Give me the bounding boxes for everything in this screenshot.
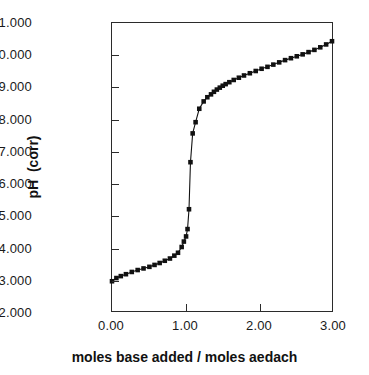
x-axis-tick-label: 0.00	[98, 318, 124, 333]
data-point-marker	[306, 50, 311, 55]
plot-area	[111, 22, 333, 312]
x-axis-tick-label: 3.00	[320, 318, 346, 333]
data-point-marker	[152, 263, 157, 268]
data-point-marker	[318, 45, 323, 50]
chart-figure: pH (corr) 2.0003.0004.0005.0006.0007.000…	[0, 0, 369, 375]
y-axis-tick-label: 9.000	[0, 79, 32, 94]
data-point-marker	[242, 73, 247, 78]
data-point-marker	[197, 106, 202, 111]
data-point-marker	[259, 66, 264, 71]
data-point-marker	[227, 80, 232, 85]
y-axis-tick-label: 10.000	[0, 47, 32, 62]
y-axis-tick-label: 7.000	[0, 143, 32, 158]
data-point-marker	[324, 42, 329, 47]
data-point-marker	[188, 160, 193, 165]
y-axis-tick	[112, 87, 119, 88]
data-point-marker	[265, 65, 270, 70]
x-axis-title: moles base added / moles aedach	[0, 349, 369, 365]
data-point-marker	[283, 58, 288, 63]
data-series-layer	[112, 23, 332, 311]
data-point-marker	[168, 256, 173, 261]
y-axis-tick	[112, 120, 119, 121]
data-point-marker	[295, 54, 300, 59]
x-axis-tick	[186, 304, 187, 311]
y-axis-tick	[112, 55, 119, 56]
data-point-marker	[187, 207, 192, 212]
y-axis-tick	[112, 249, 119, 250]
data-point-marker	[114, 276, 119, 281]
data-point-marker	[330, 39, 335, 44]
data-point-marker	[124, 272, 129, 277]
data-point-marker	[193, 120, 198, 125]
data-point-marker	[231, 78, 236, 83]
y-axis-tick	[112, 184, 119, 185]
data-point-marker	[300, 52, 305, 57]
data-point-marker	[237, 75, 242, 80]
y-axis-tick-label: 2.000	[0, 305, 32, 320]
data-point-marker	[277, 60, 282, 65]
data-point-marker	[312, 48, 317, 53]
data-point-marker	[141, 266, 146, 271]
data-point-marker	[147, 265, 152, 270]
data-point-marker	[248, 71, 253, 76]
x-axis-tick	[260, 304, 261, 311]
data-point-marker	[271, 62, 276, 67]
data-point-marker	[185, 227, 190, 232]
series-line	[112, 41, 332, 281]
y-axis-tick	[112, 281, 119, 282]
data-point-marker	[190, 131, 195, 136]
data-point-marker	[157, 261, 162, 266]
y-axis-title: pH (corr)	[20, 22, 46, 312]
y-axis-tick-label: 8.000	[0, 111, 32, 126]
x-axis-tick-label: 2.00	[246, 318, 272, 333]
y-axis-tick	[112, 152, 119, 153]
data-point-marker	[130, 270, 135, 275]
data-point-marker	[201, 99, 206, 104]
data-point-marker	[163, 258, 168, 263]
y-axis-tick	[112, 216, 119, 217]
y-axis-tick-label: 11.000	[0, 15, 32, 30]
data-point-marker	[119, 274, 124, 279]
y-axis-tick-label: 5.000	[0, 208, 32, 223]
data-point-marker	[289, 56, 294, 61]
data-point-marker	[176, 250, 181, 255]
y-axis-tick-label: 4.000	[0, 240, 32, 255]
data-point-marker	[182, 239, 187, 244]
data-point-marker	[184, 234, 189, 239]
x-axis-tick-label: 1.00	[172, 318, 198, 333]
y-axis-tick-label: 3.000	[0, 272, 32, 287]
data-point-marker	[135, 268, 140, 273]
data-point-marker	[179, 245, 184, 250]
data-point-marker	[253, 69, 258, 74]
y-axis-tick-label: 6.000	[0, 176, 32, 191]
